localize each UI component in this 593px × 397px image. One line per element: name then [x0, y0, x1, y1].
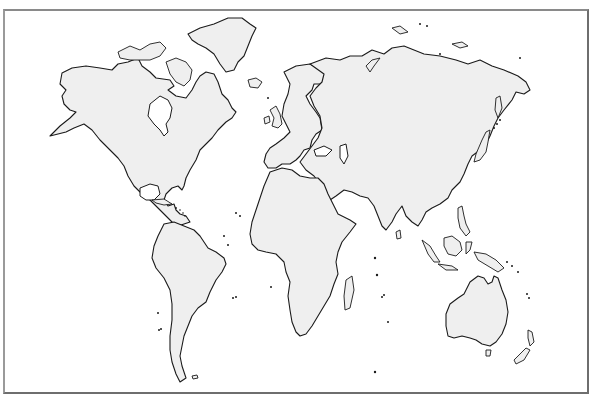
- sulawesi[interactable]: [466, 242, 472, 254]
- sri-lanka[interactable]: [396, 230, 401, 239]
- north-america[interactable]: [50, 58, 236, 226]
- south-america[interactable]: [152, 222, 226, 382]
- australia[interactable]: [446, 276, 508, 346]
- ireland[interactable]: [264, 116, 270, 124]
- new-zealand-north[interactable]: [528, 330, 534, 346]
- philippines[interactable]: [458, 206, 470, 236]
- great-britain[interactable]: [270, 106, 282, 128]
- world-map: [0, 0, 593, 397]
- severnaya-zemlya[interactable]: [452, 42, 468, 48]
- falkland-islands[interactable]: [192, 375, 198, 379]
- new-zealand-south[interactable]: [514, 348, 530, 364]
- new-guinea[interactable]: [474, 252, 504, 272]
- greenland[interactable]: [188, 18, 256, 72]
- java[interactable]: [438, 264, 458, 270]
- arctic-archipelago[interactable]: [118, 42, 166, 60]
- madagascar[interactable]: [344, 276, 354, 310]
- iceland[interactable]: [248, 78, 262, 88]
- asia[interactable]: [300, 46, 530, 230]
- sumatra[interactable]: [422, 240, 440, 262]
- franz-josef-land[interactable]: [392, 26, 408, 34]
- borneo[interactable]: [444, 236, 462, 256]
- tasmania[interactable]: [486, 350, 491, 356]
- gulf-of-mexico: [140, 184, 160, 200]
